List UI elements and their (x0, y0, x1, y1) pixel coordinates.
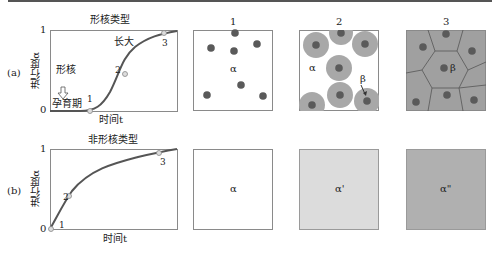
row-b-point-3-label: 3 (160, 156, 166, 168)
stage-2-label: 2 (336, 16, 342, 28)
row-a-y-axis-label: 进行度α (28, 52, 43, 89)
row-b-y-axis-label: 进行度α (28, 170, 43, 207)
stage-1-label: 1 (230, 16, 236, 28)
row-a-point-1-label: 1 (87, 93, 93, 105)
stage-3-label: 3 (443, 16, 449, 28)
row-a-label: (a) (7, 67, 21, 79)
row-b-point-2-label: 2 (63, 191, 69, 203)
stage-2-beta-label: β (360, 73, 366, 85)
row-a-point-2-label: 2 (115, 64, 121, 76)
row-b-label: (b) (7, 185, 21, 197)
stage-2-alpha-label: α (309, 62, 316, 74)
row-a-y-tick-top: 1 (40, 24, 46, 36)
row-b-alpha-label: α (230, 183, 237, 195)
nucleation-label: 形核 (56, 64, 76, 76)
row-b-y-tick-bottom: 0 (40, 223, 46, 235)
incubation-label: 孕育期 (52, 98, 82, 110)
stage-3-square (406, 30, 486, 111)
row-b-point-1-label: 1 (59, 219, 65, 231)
row-b-non-nucleation-curve (50, 149, 178, 230)
row-b-alpha-prime-label: α' (335, 183, 345, 195)
row-b-y-tick-top: 1 (40, 143, 46, 155)
stage-1-alpha-label: α (230, 63, 237, 75)
stage-3-beta-label: β (450, 62, 456, 74)
row-a-point-3-label: 3 (162, 37, 168, 49)
row-a-x-axis-label: 时间t (99, 114, 123, 126)
row-a-title: 形核类型 (90, 14, 130, 26)
growth-label: 长大 (114, 36, 134, 48)
row-a-y-tick-bottom: 0 (40, 104, 46, 116)
row-b-alpha-double-prime-label: α" (440, 183, 451, 195)
top-border (8, 0, 492, 2)
row-b-title: 非形核类型 (88, 134, 138, 146)
row-b-x-axis-label: 时间t (103, 233, 127, 245)
